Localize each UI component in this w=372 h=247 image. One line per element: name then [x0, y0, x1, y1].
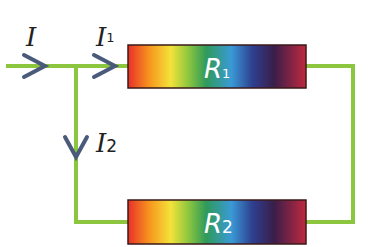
- wires: [8, 66, 353, 222]
- current-label-i: I: [25, 22, 37, 52]
- r2-subscript: 2: [222, 217, 233, 237]
- resistor-r2: R2: [128, 200, 306, 244]
- current-label-i2: I2: [95, 128, 117, 158]
- resistor-r1: R1: [128, 45, 306, 88]
- r1-subscript: 1: [222, 66, 230, 81]
- r1-symbol: R: [204, 54, 222, 84]
- circuit-diagram: R1 R2 I I1 I2: [0, 0, 372, 247]
- current-label-i1: I1: [95, 22, 115, 52]
- r2-symbol: R: [204, 209, 222, 239]
